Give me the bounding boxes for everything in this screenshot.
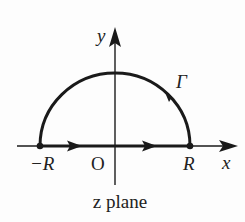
contour-diagram: y x O −R R Γ z plane	[0, 0, 245, 222]
y-axis-label: y	[95, 25, 106, 46]
contour-label-gamma: Γ	[175, 71, 188, 92]
diagram-canvas: y x O −R R Γ z plane	[0, 0, 245, 222]
origin-label: O	[91, 153, 105, 174]
label-minus-R: −R	[30, 153, 55, 174]
point-plus-R	[187, 143, 194, 150]
x-axis-label: x	[221, 152, 231, 173]
plane-title: z plane	[93, 191, 147, 212]
label-plus-R: R	[182, 153, 195, 174]
point-minus-R	[37, 143, 44, 150]
